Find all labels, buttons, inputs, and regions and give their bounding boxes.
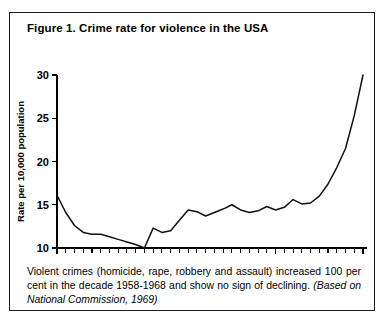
line-chart: 1015202530193319581968Rate per 10,000 po… [10, 46, 376, 258]
caption-main-text: Violent crimes (homicide, rape, robbery … [27, 266, 361, 291]
y-tick-label: 30 [37, 69, 49, 81]
chart-plot-area: 1015202530193319581968Rate per 10,000 po… [10, 46, 376, 258]
figure-container: Figure 1. Crime rate for violence in the… [9, 12, 375, 311]
y-axis-title: Rate per 10,000 population [15, 101, 26, 222]
data-series-line [57, 75, 363, 248]
y-tick-label: 10 [37, 242, 49, 254]
figure-caption: Violent crimes (homicide, rape, robbery … [27, 265, 361, 308]
y-tick-label: 20 [37, 156, 49, 168]
x-tick-label: 1968 [348, 257, 372, 258]
x-tick-label: 1933 [53, 257, 77, 258]
y-tick-label: 15 [37, 199, 49, 211]
y-tick-label: 25 [37, 112, 49, 124]
figure-title: Figure 1. Crime rate for violence in the… [27, 22, 269, 34]
x-tick-label: 1958 [263, 257, 287, 258]
